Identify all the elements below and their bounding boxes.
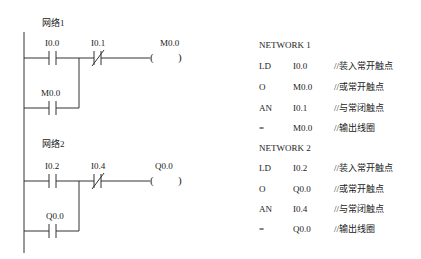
contact-label: I0.4 [91, 161, 105, 171]
stl-comment: //与常闭触点 [334, 103, 384, 113]
coil-label: M0.0 [160, 38, 179, 48]
stl-op: O [259, 82, 266, 92]
stl-op: LD [259, 61, 271, 71]
network1-title: 网络1 [42, 18, 65, 28]
network2-rung [24, 173, 150, 238]
stl-network1-header: NETWORK 1 [259, 40, 311, 50]
contact-label: I0.0 [45, 38, 59, 48]
stl-operand: I0.4 [293, 204, 307, 214]
stl-operand: M0.0 [293, 123, 312, 133]
network1-rung [24, 50, 150, 115]
stl-comment: //或常开触点 [334, 184, 384, 194]
network2-title: 网络2 [42, 139, 65, 149]
stl-comment: //装入常开触点 [334, 163, 393, 173]
coil-label: Q0.0 [155, 161, 173, 171]
stl-operand: Q0.0 [293, 224, 311, 234]
stl-comment: //输出线圈 [334, 224, 375, 234]
stl-op: LD [259, 163, 271, 173]
stl-network2-header: NETWORK 2 [259, 143, 311, 153]
stl-comment: //或常开触点 [334, 82, 384, 92]
coil-open-icon: ( [150, 52, 154, 62]
stl-comment: //输出线圈 [334, 123, 375, 133]
stl-op: O [259, 184, 266, 194]
contact-label: M0.0 [41, 88, 60, 98]
stl-operand: I0.0 [293, 61, 307, 71]
stl-op: = [259, 123, 264, 133]
stl-operand: M0.0 [293, 82, 312, 92]
stl-operand: I0.2 [293, 163, 307, 173]
stl-op: AN [259, 204, 272, 214]
stl-op: AN [259, 103, 272, 113]
coil-close-icon: ) [178, 52, 182, 62]
coil-open-icon: ( [150, 175, 154, 185]
contact-label: Q0.0 [46, 211, 64, 221]
contact-label: I0.1 [91, 38, 105, 48]
coil-close-icon: ) [178, 175, 182, 185]
stl-comment: //与常闭触点 [334, 204, 384, 214]
stl-comment: //装入常开触点 [334, 61, 393, 71]
stl-operand: Q0.0 [293, 184, 311, 194]
stl-operand: I0.1 [293, 103, 307, 113]
stl-op: = [259, 224, 264, 234]
contact-label: I0.2 [45, 161, 59, 171]
